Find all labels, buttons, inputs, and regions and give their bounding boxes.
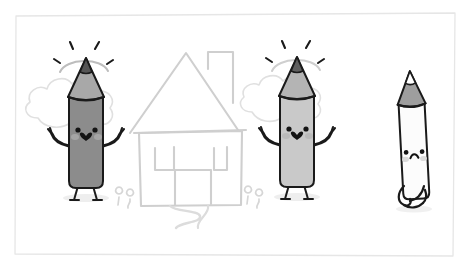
blush-right bbox=[305, 133, 313, 139]
eye-right bbox=[92, 127, 97, 132]
blush-left bbox=[71, 134, 79, 140]
eye-left bbox=[75, 127, 80, 132]
pencil-body bbox=[280, 95, 314, 187]
pencil-body bbox=[399, 102, 430, 199]
eye-left bbox=[286, 126, 291, 131]
illustration-canvas bbox=[0, 0, 469, 270]
blush-left bbox=[282, 133, 290, 139]
blush-right bbox=[94, 134, 102, 140]
pencil-body bbox=[69, 96, 103, 188]
pencil-characters-illustration bbox=[0, 0, 469, 270]
eye-right bbox=[303, 126, 308, 131]
